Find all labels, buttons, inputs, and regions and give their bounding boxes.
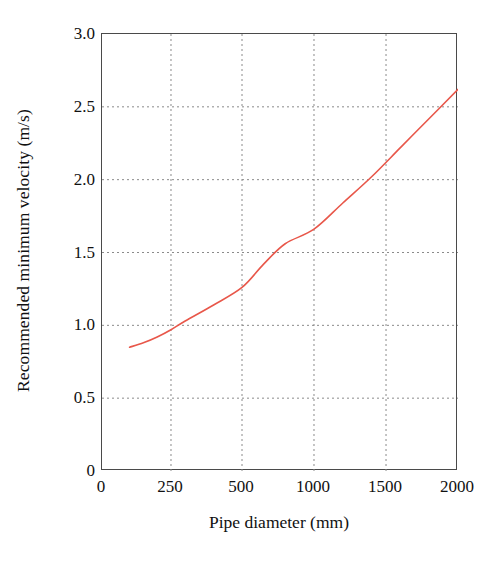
x-tick-label: 1500 xyxy=(368,478,402,495)
chart-figure: Recommended minimum velocity (m/s) 00.51… xyxy=(0,0,502,561)
y-tick-label: 2.5 xyxy=(49,97,95,114)
y-tick-label: 0 xyxy=(49,462,95,479)
x-axis-title: Pipe diameter (mm) xyxy=(101,512,457,533)
y-axis-title-label: Recommended minimum velocity (m/s) xyxy=(13,109,34,392)
data-series-layer xyxy=(130,89,458,347)
y-tick-label: 0.5 xyxy=(49,389,95,406)
y-axis-tick-labels: 00.51.01.52.02.53.0 xyxy=(47,33,95,470)
horizontal-gridlines xyxy=(102,107,458,398)
y-tick-label: 3.0 xyxy=(49,25,95,42)
y-axis-title: Recommended minimum velocity (m/s) xyxy=(0,0,46,500)
x-tick-label: 250 xyxy=(157,478,183,495)
y-tick-label: 1.0 xyxy=(49,316,95,333)
x-tick-label: 500 xyxy=(228,478,254,495)
plot-area xyxy=(101,33,457,470)
x-axis-tick-labels: 0250500100015002000 xyxy=(101,478,457,502)
x-tick-label: 1000 xyxy=(296,478,330,495)
series-line xyxy=(130,89,458,347)
plot-canvas xyxy=(102,34,458,471)
x-tick-label: 0 xyxy=(97,478,106,495)
y-tick-label: 1.5 xyxy=(49,243,95,260)
x-tick-label: 2000 xyxy=(440,478,474,495)
y-tick-label: 2.0 xyxy=(49,170,95,187)
